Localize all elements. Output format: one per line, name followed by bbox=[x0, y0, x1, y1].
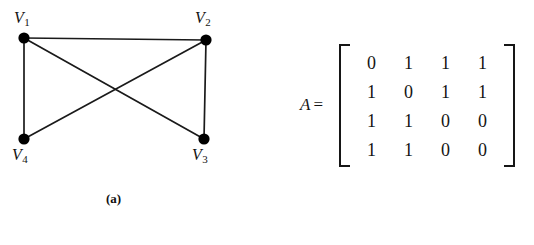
matrix-cell-r2c1: 1 bbox=[353, 77, 390, 106]
vertex-label-v2-subscript: 2 bbox=[205, 16, 211, 28]
vertex-label-v3-letter: V bbox=[192, 146, 202, 163]
matrix-cell-r1c3: 1 bbox=[427, 48, 464, 77]
matrix-name-label: A bbox=[300, 96, 310, 115]
vertex-label-v4: V4 bbox=[12, 147, 28, 165]
matrix-cell-r4c1: 1 bbox=[353, 135, 390, 164]
matrix-cell-r1c2: 1 bbox=[390, 48, 427, 77]
figure-root: V1 V2 V3 V4 (a) A = 0 1 1 1 1 0 1 1 bbox=[0, 0, 534, 245]
vertex-label-v3: V3 bbox=[192, 147, 208, 165]
graph-drawing bbox=[0, 0, 267, 245]
matrix-cell-r1c1: 0 bbox=[353, 48, 390, 77]
vertex-v3-dot bbox=[198, 133, 209, 144]
vertex-label-v1-subscript: 1 bbox=[24, 16, 30, 28]
panel-matrix: A = 0 1 1 1 1 0 1 1 1 1 0 0 1 bbox=[267, 0, 534, 245]
edge-v1-v2 bbox=[24, 38, 206, 40]
matrix-cell-r3c2: 1 bbox=[390, 106, 427, 135]
graph-edge-group bbox=[24, 38, 206, 139]
matrix-bracketed-block: 0 1 1 1 1 0 1 1 1 1 0 0 1 1 0 0 bbox=[339, 44, 515, 167]
vertex-label-v1-letter: V bbox=[14, 9, 24, 26]
vertex-label-v4-letter: V bbox=[12, 146, 22, 163]
edge-v2-v3 bbox=[204, 40, 206, 139]
matrix-right-bracket bbox=[504, 44, 515, 167]
matrix-cell-r4c4: 0 bbox=[464, 135, 501, 164]
panel-caption-a: (a) bbox=[106, 192, 121, 205]
matrix-equation: A = 0 1 1 1 1 0 1 1 1 1 0 0 1 bbox=[300, 44, 515, 167]
matrix-cell-r4c2: 1 bbox=[390, 135, 427, 164]
matrix-cell-r2c3: 1 bbox=[427, 77, 464, 106]
vertex-label-v3-subscript: 3 bbox=[202, 153, 208, 165]
matrix-cell-r3c1: 1 bbox=[353, 106, 390, 135]
vertex-label-v2: V2 bbox=[195, 10, 211, 28]
matrix-cell-r3c4: 0 bbox=[464, 106, 501, 135]
panel-graph: V1 V2 V3 V4 (a) bbox=[0, 0, 267, 245]
matrix-cell-r4c3: 0 bbox=[427, 135, 464, 164]
matrix-left-bracket bbox=[339, 44, 350, 167]
matrix-cell-r3c3: 0 bbox=[427, 106, 464, 135]
matrix-grid: 0 1 1 1 1 0 1 1 1 1 0 0 1 1 0 0 bbox=[350, 44, 504, 167]
matrix-cell-r2c4: 1 bbox=[464, 77, 501, 106]
vertex-v2-dot bbox=[200, 34, 211, 45]
vertex-v4-dot bbox=[18, 133, 29, 144]
vertex-label-v4-subscript: 4 bbox=[22, 153, 28, 165]
vertex-label-v2-letter: V bbox=[195, 9, 205, 26]
matrix-cell-r2c2: 0 bbox=[390, 77, 427, 106]
matrix-equals-sign: = bbox=[313, 96, 323, 115]
vertex-v1-dot bbox=[18, 32, 29, 43]
matrix-cell-r1c4: 1 bbox=[464, 48, 501, 77]
vertex-label-v1: V1 bbox=[14, 10, 30, 28]
